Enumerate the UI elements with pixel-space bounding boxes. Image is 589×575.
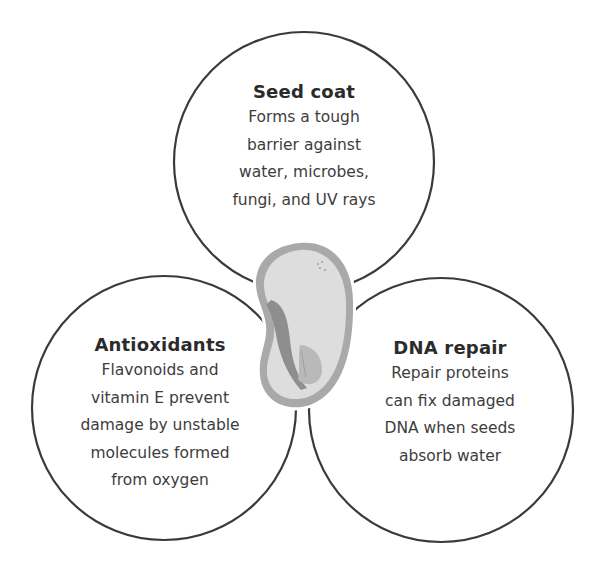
dna-repair-title: DNA repair [330,336,570,360]
label-seed-coat: Seed coat Forms a tough barrier against … [184,80,424,214]
antioxidants-line-1: Flavonoids and [40,357,280,385]
label-dna-repair: DNA repair Repair proteins can fix damag… [330,336,570,470]
seed-protection-diagram: Seed coat Forms a tough barrier against … [0,0,589,575]
seed-coat-line-1: Forms a tough [184,104,424,132]
antioxidants-line-4: molecules formed [40,440,280,468]
dna-repair-line-4: absorb water [330,443,570,471]
dna-repair-line-3: DNA when seeds [330,415,570,443]
antioxidants-title: Antioxidants [40,333,280,357]
seed-coat-title: Seed coat [184,80,424,104]
dna-repair-description: Repair proteins can fix damaged DNA when… [330,360,570,470]
antioxidants-line-3: damage by unstable [40,412,280,440]
label-antioxidants: Antioxidants Flavonoids and vitamin E pr… [40,333,280,495]
dna-repair-line-2: can fix damaged [330,388,570,416]
dna-repair-line-1: Repair proteins [330,360,570,388]
seed-coat-line-2: barrier against [184,132,424,160]
antioxidants-line-2: vitamin E prevent [40,385,280,413]
seed-coat-line-3: water, microbes, [184,159,424,187]
seed-coat-description: Forms a tough barrier against water, mic… [184,104,424,214]
seed-coat-line-4: fungi, and UV rays [184,187,424,215]
antioxidants-description: Flavonoids and vitamin E prevent damage … [40,357,280,495]
antioxidants-line-5: from oxygen [40,467,280,495]
